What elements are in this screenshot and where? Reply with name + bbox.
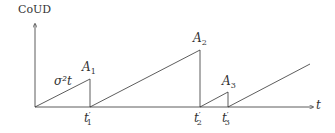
sawtooth-diagram: CoUD t σ²t A1 A2 A3 t′1 t′2 t′3 (0, 0, 335, 133)
peak-label-a1: A1 (82, 60, 96, 76)
tick-label-t1: t′1 (84, 110, 92, 127)
peak-label-a2: A2 (193, 31, 207, 47)
tick-label-t3: t′3 (222, 110, 230, 127)
y-axis-label: CoUD (18, 3, 51, 16)
diagram-lines (0, 0, 335, 133)
x-axis-label: t (316, 98, 321, 112)
peak-label-a3: A3 (222, 74, 236, 90)
tick-label-t2: t′2 (194, 110, 202, 127)
slope-label: σ²t (54, 74, 72, 88)
sawtooth-curve (35, 50, 310, 107)
